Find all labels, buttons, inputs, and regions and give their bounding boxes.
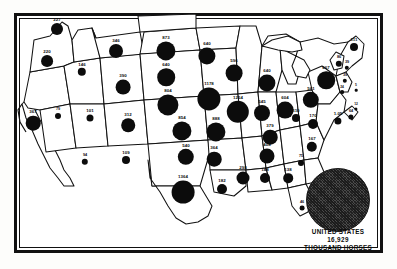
value-label-ks: 854 [178, 116, 185, 120]
value-label-vt: 86 [337, 56, 341, 60]
value-label-sd: 640 [162, 63, 169, 67]
symbol-circle-al [260, 173, 270, 183]
value-label-ar: 364 [210, 146, 217, 150]
value-label-ga: 138 [284, 168, 291, 172]
value-label-mn: 640 [203, 42, 210, 46]
value-label-nh: 39 [345, 61, 349, 65]
symbol-circle-ar [207, 152, 222, 167]
symbol-circle-wi [226, 65, 243, 82]
value-label-de: 12 [354, 103, 358, 106]
value-label-nv: 79 [56, 108, 60, 112]
value-label-md: 1.05 [334, 112, 343, 116]
value-label-ny: 667 [322, 66, 329, 70]
value-label-nm: 109 [122, 150, 129, 154]
symbol-circle-co [121, 118, 135, 132]
value-label-id: 146 [78, 62, 85, 66]
symbol-circle-ct [340, 90, 344, 94]
value-label-va: 170 [309, 113, 316, 117]
value-label-ne: 804 [164, 89, 171, 93]
symbol-circle-sd [157, 68, 175, 86]
value-label-or: 220 [43, 50, 50, 54]
value-label-ut: 101 [86, 109, 93, 113]
symbol-circle-ri [355, 89, 358, 92]
symbol-circle-fl [300, 206, 305, 211]
value-label-co: 312 [124, 113, 131, 117]
legend-units-label: THOUSAND HORSES [292, 244, 384, 252]
value-label-wv: 110 [292, 108, 299, 112]
value-label-nj: 64 [349, 110, 353, 114]
value-label-la: 182 [218, 178, 225, 182]
symbol-circle-va [308, 119, 318, 129]
value-label-ok: 540 [182, 143, 189, 147]
legend-country-label: UNITED STATES [292, 228, 384, 236]
value-label-fl: 46 [300, 201, 304, 205]
legend-total-circle [306, 168, 370, 232]
symbol-circle-oh [277, 102, 294, 119]
value-label-wy: 390 [119, 74, 126, 78]
horse-population-map: 2272203671467934639010194312109873640804… [0, 0, 397, 269]
symbol-circle-la [217, 184, 227, 194]
value-label-il: 1254 [233, 95, 243, 99]
value-label-ky: 379 [266, 124, 273, 128]
value-label-wi: 596 [230, 59, 237, 63]
value-label-me: 111 [351, 37, 358, 41]
symbol-circle-nm [122, 156, 130, 164]
value-label-tx: 1364 [178, 175, 188, 179]
symbol-circle-wy [116, 80, 131, 95]
value-label-nc: 167 [308, 136, 315, 140]
value-label-ca: 367 [29, 110, 36, 114]
value-label-tn: 408 [263, 143, 270, 147]
symbol-circle-wv [292, 114, 300, 122]
value-label-ct: 24 [340, 86, 344, 89]
symbol-circle-ga [283, 173, 293, 183]
value-label-mt: 346 [112, 38, 119, 42]
symbol-circle-tx [172, 181, 195, 204]
symbol-circle-nv [55, 113, 61, 119]
symbol-circle-in [254, 105, 270, 121]
symbol-circle-mt [109, 44, 123, 58]
value-label-ri: 5 [355, 85, 357, 88]
value-label-az: 94 [83, 154, 87, 158]
value-label-in: 545 [258, 99, 265, 103]
value-label-oh: 604 [281, 96, 288, 100]
symbol-circle-ca [26, 116, 41, 131]
value-label-ma: 39 [343, 74, 347, 78]
symbol-circle-or [41, 55, 53, 67]
symbol-circle-ut [87, 115, 94, 122]
value-label-sc: 75 [299, 155, 303, 159]
value-label-nd: 873 [162, 36, 169, 40]
symbol-circle-ms [237, 172, 250, 185]
legend-caption: UNITED STATES 16,929 THOUSAND HORSES [292, 228, 384, 252]
value-label-mo: 888 [212, 117, 219, 121]
value-label-al: 148 [261, 167, 268, 171]
value-label-ms: 298 [239, 166, 246, 170]
value-label-ia: 1178 [204, 82, 214, 86]
symbol-circle-sc [298, 160, 304, 166]
symbol-circle-me [350, 43, 358, 51]
symbol-circle-wa [51, 23, 63, 35]
symbol-circle-ny [317, 71, 335, 89]
symbol-circle-tn [260, 149, 275, 164]
legend-amount: 16,929 [292, 236, 384, 244]
value-label-wa: 227 [53, 17, 60, 21]
value-label-pa: 561 [307, 86, 314, 90]
value-label-mi: 640 [263, 69, 270, 73]
